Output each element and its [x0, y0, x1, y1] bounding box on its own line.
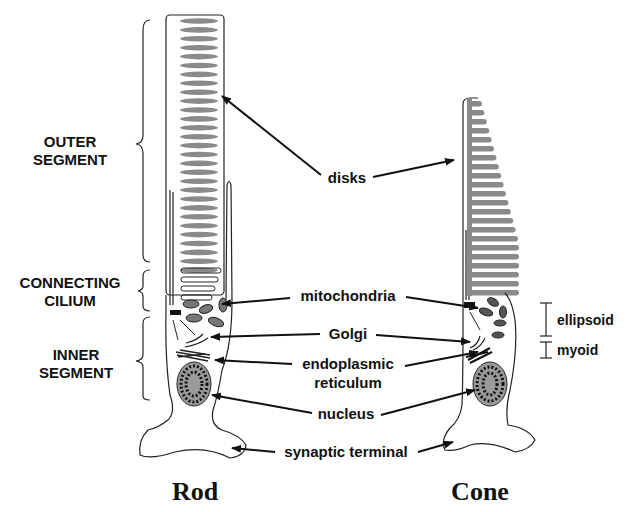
cone-disk [468, 173, 501, 179]
cone-disk [468, 209, 511, 215]
rod-open-disk [181, 286, 215, 291]
cone-disk [468, 191, 506, 197]
photoreceptor-diagram: /* placeholder */ [0, 0, 627, 512]
rod-disk [180, 152, 218, 158]
rod-disk [180, 45, 218, 51]
rod-disk [180, 54, 218, 60]
rod-disk [180, 205, 218, 211]
rod-disk [180, 259, 218, 265]
outer-segment-label-1: OUTER [44, 133, 97, 150]
rod-disk [180, 250, 218, 256]
rod-disk [180, 107, 218, 113]
rod-disk [180, 36, 218, 42]
myoid-label: myoid [557, 342, 598, 358]
cone-disk [468, 146, 494, 152]
rod-basal-body [170, 310, 181, 315]
rod-disk [180, 241, 218, 247]
outer-segment-label-2: SEGMENT [33, 151, 107, 168]
ellipsoid-label: ellipsoid [557, 312, 614, 328]
er-label-2: reticulum [314, 374, 382, 391]
rod-golgi [185, 334, 208, 347]
rod-cell: /* placeholder */ [140, 15, 246, 458]
cone-disk [468, 128, 489, 134]
cone-disk [468, 200, 508, 206]
rod-disk [180, 161, 218, 167]
cone-disk [468, 110, 484, 116]
rod-disk [180, 27, 218, 33]
rod-disk [180, 196, 218, 202]
cone-disk [468, 137, 492, 143]
rod-disk [180, 98, 218, 104]
cone-disk [468, 218, 513, 224]
pointer-arrows [211, 96, 478, 452]
cone-disk [468, 245, 519, 251]
mitochondria-label: mitochondria [300, 287, 396, 304]
rod-disk [180, 143, 218, 149]
rod-disk [180, 125, 218, 131]
synaptic-terminal-label: synaptic terminal [284, 443, 407, 460]
cone-golgi [470, 336, 485, 350]
cone-disk [468, 155, 496, 161]
rod-disk [180, 18, 218, 24]
rod-disk [180, 170, 218, 176]
cone-disk [468, 227, 516, 233]
rod-disk [180, 116, 218, 122]
cone-disk [468, 254, 519, 260]
er-label-1: endoplasmic [302, 355, 394, 372]
rod-open-disk [181, 277, 218, 282]
connecting-cilium-label-1: CONNECTING [20, 274, 121, 291]
cone-cell [443, 98, 535, 452]
cone-region-brackets [540, 303, 552, 358]
rod-disk [180, 187, 218, 193]
golgi-label: Golgi [329, 325, 367, 342]
cone-disk [468, 236, 518, 242]
rod-disk [180, 134, 218, 140]
cone-title: Cone [451, 477, 509, 506]
rod-disk [180, 89, 218, 95]
cone-disk [468, 164, 499, 170]
rod-disk [180, 232, 218, 238]
rod-disk [180, 81, 218, 87]
disks-label: disks [328, 169, 366, 186]
cone-disk [468, 272, 519, 278]
cone-disk [468, 119, 487, 125]
segment-braces [136, 20, 150, 400]
rod-title: Rod [172, 477, 219, 506]
nucleus-label: nucleus [318, 405, 375, 422]
rod-disk [180, 223, 218, 229]
inner-segment-label-1: INNER [53, 346, 100, 363]
cone-disk [468, 281, 519, 287]
cone-mitochondria [478, 296, 506, 338]
rod-mitochondria [183, 298, 227, 328]
inner-segment-label-2: SEGMENT [39, 364, 113, 381]
cone-disk [468, 101, 482, 107]
rod-open-disk [181, 295, 212, 300]
connecting-cilium-label-2: CILIUM [44, 292, 96, 309]
rod-disk [180, 214, 218, 220]
cone-disk [468, 290, 519, 296]
cone-disk [468, 182, 504, 188]
rod-disk [180, 63, 218, 69]
rod-er [176, 350, 210, 361]
rod-disk [180, 178, 218, 184]
cone-er [466, 348, 492, 363]
rod-disk [180, 72, 218, 78]
cone-disk [468, 263, 519, 269]
